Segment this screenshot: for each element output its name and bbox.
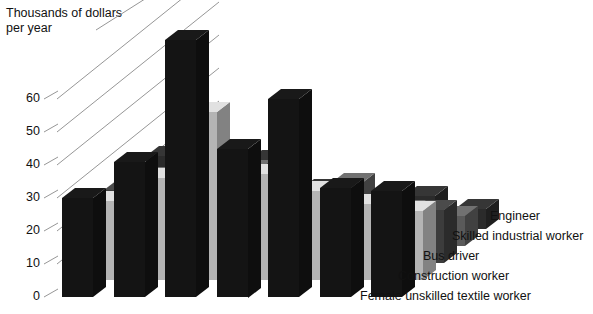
y-axis-title: Thousands of dollars per year — [6, 6, 122, 36]
bar-side-face — [196, 30, 209, 297]
bar-side-face — [248, 139, 261, 298]
legend-item-bus-driver: Bus driver — [423, 249, 479, 263]
y-tick-50: 50 — [14, 124, 40, 138]
bar-side-face — [145, 152, 158, 297]
bar-engineer-C1 — [62, 198, 93, 297]
bar-side-face — [299, 89, 312, 297]
y-tick-30: 30 — [14, 190, 40, 204]
bar-front-face — [217, 149, 248, 298]
y-axis-title-line-2: per year — [6, 21, 122, 36]
bar-side-face — [351, 178, 364, 297]
bar-front-face — [62, 198, 93, 297]
y-tick-60: 60 — [14, 91, 40, 105]
legend-item-engineer: Engineer — [490, 209, 540, 223]
bar-engineer-C4 — [217, 149, 248, 298]
y-tick-0: 0 — [14, 289, 40, 303]
bar-front-face — [165, 40, 196, 297]
chart-canvas: Thousands of dollars per year 0102030405… — [0, 0, 593, 314]
legend-item-construction-worker: Construction worker — [398, 269, 509, 283]
legend-item-female-unskilled-textile-worker: Female unskilled textile worker — [360, 289, 531, 303]
bar-side-face — [93, 188, 106, 297]
legend-item-skilled-industrial-worker: Skilled industrial worker — [452, 229, 583, 243]
bar-front-face — [114, 162, 145, 297]
y-axis-title-line-1: Thousands of dollars — [6, 6, 122, 21]
bar-engineer-C5 — [268, 99, 299, 297]
bar-front-face — [268, 99, 299, 297]
y-tick-40: 40 — [14, 157, 40, 171]
bar-engineer-C6 — [320, 188, 351, 297]
y-tick-10: 10 — [14, 256, 40, 270]
y-tick-20: 20 — [14, 223, 40, 237]
bar-engineer-C3 — [165, 40, 196, 297]
bar-front-face — [320, 188, 351, 297]
bar-engineer-C2 — [114, 162, 145, 297]
